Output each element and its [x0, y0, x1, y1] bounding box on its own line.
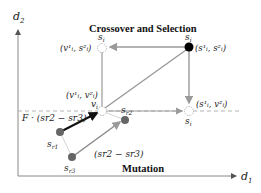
label-s-r2: sr2 [121, 105, 132, 116]
de-operator-diagram: d2 d1 Crossover and Selection Mutation s… [0, 0, 261, 193]
x-axis-label: d1 [241, 170, 253, 185]
point-s-r1 [56, 128, 64, 136]
point-s-r2 [121, 116, 129, 124]
crossover-edges [102, 47, 189, 111]
trial-point-top-left [98, 44, 107, 53]
label-v-i-name: vi [91, 99, 98, 110]
trial-point-bottom-right [185, 107, 194, 116]
label-bottom-right-coord: (s¹ᵢ, v²ᵢ) [196, 99, 227, 109]
label-s-r1: sr1 [47, 139, 58, 150]
label-s-r3: sr3 [64, 163, 75, 174]
y-axis-label: d2 [13, 10, 25, 25]
label-bottom-right-name: si [185, 116, 192, 127]
crossover-title: Crossover and Selection [89, 23, 197, 34]
mutant-point-v-i [98, 107, 107, 116]
label-top-left-coord: (v¹ᵢ, s²ᵢ) [60, 43, 91, 53]
mutation-title: Mutation [122, 163, 164, 174]
target-point-s-i [185, 43, 194, 52]
label-scaled-difference: F · (sr2 − sr3) [21, 113, 87, 123]
label-s-i-coord: (s¹ᵢ, s²ᵢ) [195, 43, 226, 53]
label-difference-vector: (sr2 − sr3) [94, 149, 144, 159]
point-s-r3 [68, 153, 76, 161]
